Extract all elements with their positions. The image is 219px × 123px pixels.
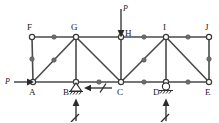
- node-I-icon: [163, 34, 168, 39]
- node-G-icon: [73, 34, 78, 39]
- node-label-I: I: [163, 22, 166, 32]
- node-C-icon: [118, 79, 123, 84]
- mid-dot-icon: [97, 80, 102, 85]
- member-G-C: [76, 37, 121, 82]
- arrow-head-up-icon: [73, 99, 80, 107]
- force-labels-group: P P: [4, 4, 128, 86]
- node-F-icon: [29, 34, 34, 39]
- node-label-G: G: [71, 22, 78, 32]
- truss-diagram-canvas: F G H I J A B C D E P P: [0, 0, 219, 122]
- node-label-F: F: [27, 22, 32, 32]
- mid-dot-icon: [30, 57, 35, 62]
- truss-figure: F G H I J A B C D E P P: [0, 0, 219, 122]
- mid-dot-icon: [142, 80, 147, 85]
- mid-dot-icon: [142, 58, 147, 63]
- members-group: [32, 37, 209, 82]
- node-J-icon: [206, 34, 211, 39]
- reaction-vertical-at-D: [161, 99, 169, 123]
- mid-dot-icon: [207, 57, 212, 62]
- node-E-icon: [206, 79, 211, 84]
- load-label-P-at-A: P: [4, 77, 10, 86]
- node-label-C: C: [117, 87, 123, 97]
- pin-triangle-icon: [71, 83, 82, 91]
- arrow-head-left-icon: [84, 85, 91, 91]
- member-I-E: [166, 37, 209, 82]
- support-B-pin: [69, 83, 83, 95]
- arrow-head-up-icon: [163, 99, 170, 107]
- node-label-A: A: [29, 87, 36, 97]
- node-label-B: B: [63, 87, 69, 97]
- reaction-vertical-at-B: [71, 99, 79, 123]
- mid-dot-icon: [186, 80, 191, 85]
- node-label-J: J: [205, 22, 209, 32]
- mid-dot-icon: [52, 58, 57, 63]
- mid-dot-icon: [52, 35, 57, 40]
- support-D-roller: [159, 83, 173, 94]
- mid-dot-icon: [142, 35, 147, 40]
- reaction-horizontal-at-B: [84, 84, 112, 93]
- mid-dot-icon: [186, 35, 191, 40]
- node-label-D: D: [153, 87, 160, 97]
- node-label-H: H: [125, 28, 132, 38]
- reaction-slash-tick: [161, 114, 169, 122]
- reaction-slash-tick: [71, 114, 79, 122]
- load-label-P-at-H: P: [122, 4, 128, 13]
- load-P-at-H: [118, 9, 125, 38]
- roller-circle-icon: [162, 83, 169, 90]
- node-label-E: E: [205, 87, 211, 97]
